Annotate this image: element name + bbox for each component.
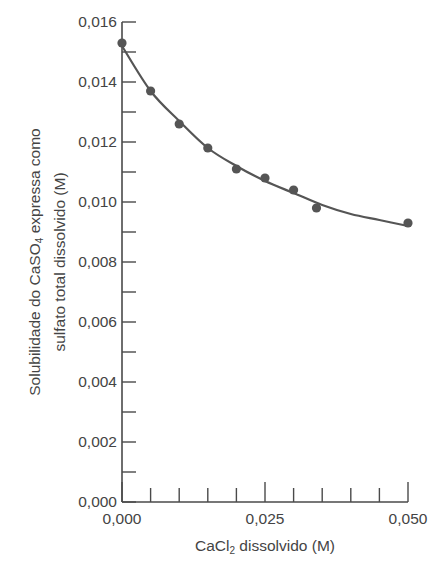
x-tick-label: 0,000 xyxy=(103,510,142,527)
data-point xyxy=(403,218,412,227)
x-tick-label: 0,025 xyxy=(246,510,285,527)
data-point xyxy=(289,185,298,194)
data-point xyxy=(312,203,321,212)
x-axis-label: CaCl2 dissolvido (M) xyxy=(122,537,408,556)
x-label-text-a: CaCl xyxy=(195,537,229,554)
x-tick-label: 0,050 xyxy=(389,510,428,527)
data-point xyxy=(146,86,155,95)
y-label-text-a: Solubilidade do CaSO xyxy=(26,243,43,396)
data-point xyxy=(203,143,212,152)
data-point xyxy=(232,164,241,173)
x-label-text-b: dissolvido (M) xyxy=(235,537,335,554)
data-point xyxy=(117,38,126,47)
data-point xyxy=(175,119,184,128)
data-points xyxy=(117,38,412,227)
fitted-curve xyxy=(122,46,408,226)
axes xyxy=(122,22,408,502)
y-axis-label-line2: sulfato total dissolvido (M) xyxy=(50,128,70,396)
y-label-subscript: 4 xyxy=(34,238,45,244)
y-axis-label-line1: Solubilidade do CaSO4 expressa como xyxy=(25,128,50,396)
y-label-text-b: expressa como xyxy=(26,128,43,237)
data-point xyxy=(260,173,269,182)
x-axis-ticks: 0,0000,0250,050 xyxy=(103,482,428,527)
y-axis-label: Solubilidade do CaSO4 expressa como sulf… xyxy=(2,0,92,567)
